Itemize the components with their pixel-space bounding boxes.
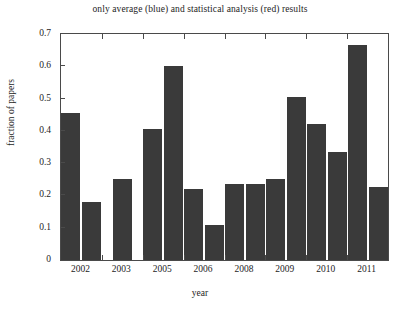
x-tick-mark-bottom: [184, 255, 185, 260]
bar: [113, 179, 132, 260]
x-tick-label: 2003: [112, 264, 131, 274]
bars-layer: [61, 34, 388, 260]
y-tick-label: 0.2: [39, 189, 51, 199]
y-tick-label: 0.5: [39, 93, 51, 103]
bar: [61, 113, 80, 260]
x-tick-mark-bottom: [306, 255, 307, 260]
y-tick-mark: [60, 227, 65, 228]
x-tick-label: 2008: [234, 264, 253, 274]
y-tick-label: 0.1: [39, 222, 51, 232]
x-tick-mark-top: [143, 34, 144, 39]
x-tick-label: 2010: [316, 264, 335, 274]
bar: [82, 202, 101, 260]
x-tick-label: 2006: [194, 264, 213, 274]
x-tick-mark-bottom: [102, 255, 103, 260]
bar: [143, 129, 162, 260]
y-tick-label: 0.6: [39, 60, 51, 70]
x-tick-mark-top: [225, 34, 226, 39]
bar: [246, 184, 265, 260]
y-axis: 00.10.20.30.40.50.60.7: [0, 0, 56, 320]
y-tick-mark: [60, 162, 65, 163]
y-tick-mark: [60, 130, 65, 131]
bar: [266, 179, 285, 260]
x-tick-mark-top: [265, 34, 266, 39]
bar: [184, 189, 203, 260]
x-tick-mark-bottom: [265, 255, 266, 260]
bar: [348, 45, 367, 260]
x-tick-mark-bottom: [347, 255, 348, 260]
bar: [369, 187, 388, 260]
chart-title: only average (blue) and statistical anal…: [0, 4, 400, 14]
bar: [328, 152, 347, 260]
y-axis-title: fraction of papers: [6, 79, 16, 146]
x-axis-title: year: [0, 288, 400, 298]
x-tick-label: 2011: [357, 264, 376, 274]
x-tick-mark-bottom: [143, 255, 144, 260]
bar: [307, 124, 326, 260]
x-tick-mark-top: [102, 34, 103, 39]
x-tick-mark-top: [306, 34, 307, 39]
x-tick-label: 2002: [71, 264, 90, 274]
y-tick-label: 0.4: [39, 125, 51, 135]
bar: [225, 184, 244, 260]
bar: [287, 97, 306, 260]
x-tick-label: 2009: [275, 264, 294, 274]
y-tick-mark: [60, 194, 65, 195]
x-tick-mark-top: [184, 34, 185, 39]
y-tick-label: 0.7: [39, 28, 51, 38]
plot-area: [60, 33, 389, 261]
y-tick-mark: [60, 65, 65, 66]
bar: [205, 225, 224, 261]
x-tick-label: 2005: [153, 264, 172, 274]
y-tick-mark: [60, 98, 65, 99]
chart-figure: only average (blue) and statistical anal…: [0, 0, 400, 320]
y-tick-label: 0: [46, 254, 51, 264]
y-tick-label: 0.3: [39, 157, 51, 167]
bar: [164, 66, 183, 260]
x-tick-mark-top: [347, 34, 348, 39]
x-tick-mark-bottom: [225, 255, 226, 260]
